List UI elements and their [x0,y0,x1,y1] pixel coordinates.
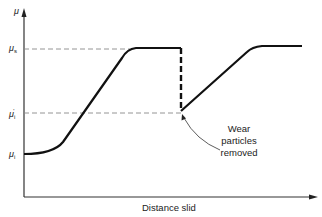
wear-particles-annotation: Wear particles removed [210,123,268,159]
annotation-line-2: particles [210,135,268,147]
mu-i-subscript: i [14,154,15,160]
annotation-line-3: removed [210,147,268,159]
reference-lines [24,49,181,113]
y-axis-arrow-icon [22,8,27,17]
friction-vs-distance-diagram: μ μs μi' μi Wear particles removed Dista… [0,0,322,217]
mu-s-subscript: s [14,48,17,54]
annotation-line-1: Wear [210,123,268,135]
mu-i-prime-subscript: i [14,114,15,120]
mu-i-label: μi [9,150,15,160]
initial-friction-curve [24,48,181,154]
recovery-friction-curve [181,46,302,111]
mu-s-label: μs [9,44,17,54]
x-axis-arrow-icon [309,195,318,200]
axes [22,8,319,200]
annotation-arrowhead-icon [182,114,187,121]
y-axis-symbol: μ [14,6,19,16]
y-axis-label: μ [14,7,19,16]
diagram-canvas [0,0,322,217]
x-axis-label: Distance slid [142,202,196,213]
mu-i-prime-label: μi' [9,108,14,120]
